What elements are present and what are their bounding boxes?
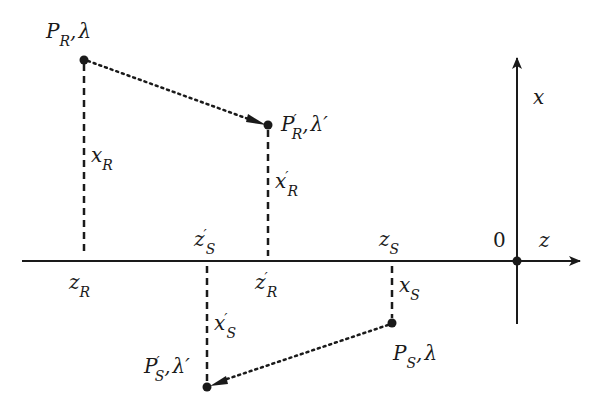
arrowhead-S <box>210 376 228 386</box>
label-zR: zR <box>68 270 91 300</box>
point-PS-prime <box>203 383 212 392</box>
arrowhead-R <box>246 114 266 125</box>
origin-label: 0 <box>493 228 506 252</box>
label-xR-prime: x′R <box>275 169 298 199</box>
label-zS: zS <box>378 227 399 257</box>
label-zS-prime: z′S <box>193 227 215 257</box>
label-PS: PS,λ <box>392 341 437 371</box>
label-xS-prime: x′S <box>214 311 236 341</box>
label-xR: xR <box>91 143 113 173</box>
z-axis-label: z <box>538 228 550 252</box>
point-PR-prime <box>264 121 273 130</box>
label-PS-prime: P′S,λ′ <box>143 354 190 384</box>
point-PR <box>80 56 89 65</box>
label-PR: PR,λ <box>45 19 91 49</box>
label-zR-prime: z′R <box>254 270 278 300</box>
origin-dot <box>513 257 522 266</box>
transform-arrow-S <box>224 325 388 380</box>
coordinate-diagram: x z 0 PR,λ P′R,λ′ xR x′R zR z′R z′S zS x… <box>0 0 598 410</box>
label-xS: xS <box>399 273 420 303</box>
transform-arrow-R <box>88 61 254 121</box>
point-PS <box>388 319 397 328</box>
label-PR-prime: P′R,λ′ <box>280 112 328 142</box>
x-axis-label: x <box>533 85 544 109</box>
